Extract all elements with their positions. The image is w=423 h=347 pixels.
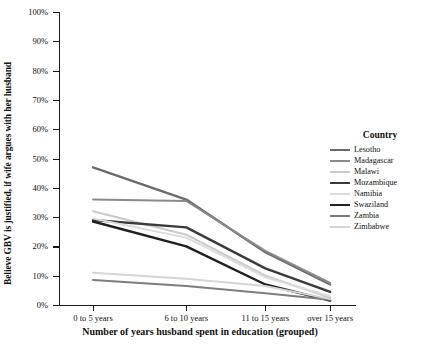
legend-item: Namibia <box>330 188 422 199</box>
legend-label: Zambia <box>354 211 379 220</box>
x-tick-mark <box>330 305 331 311</box>
y-tick-label: 90% <box>6 36 48 46</box>
legend: Country LesothoMadagascarMalawiMozambiqu… <box>330 130 422 232</box>
y-tick-label: 100% <box>6 7 48 17</box>
legend-item: Lesotho <box>330 144 422 155</box>
y-tick-label: 40% <box>6 182 48 192</box>
y-tick-label: 70% <box>6 94 48 104</box>
chart-page: Believe GBV is justified, if wife argues… <box>0 0 423 347</box>
legend-title: Country <box>332 130 422 140</box>
y-tick-label: 20% <box>6 241 48 251</box>
legend-label: Malawi <box>354 167 379 176</box>
legend-swatch <box>330 204 350 206</box>
legend-label: Mozambique <box>354 178 397 187</box>
x-tick-mark <box>93 305 94 311</box>
x-tick-label: 6 to 10 years <box>141 313 231 323</box>
x-tick-mark <box>265 305 266 311</box>
legend-item: Swaziland <box>330 199 422 210</box>
legend-label: Zimbabwe <box>354 222 389 231</box>
legend-item: Malawi <box>330 166 422 177</box>
x-axis-title: Number of years husband spent in educati… <box>40 326 360 337</box>
plot-area <box>59 12 355 305</box>
y-tick-label: 80% <box>6 65 48 75</box>
series-line <box>93 211 330 297</box>
y-tick-label: 10% <box>6 270 48 280</box>
x-tick-label: 0 to 5 years <box>48 313 138 323</box>
y-tick-mark <box>53 305 59 306</box>
legend-item: Zimbabwe <box>330 221 422 232</box>
legend-label: Namibia <box>354 189 382 198</box>
legend-swatch <box>330 226 350 228</box>
y-tick-label: 0% <box>6 300 48 310</box>
legend-swatch <box>330 182 350 184</box>
y-tick-label: 30% <box>6 212 48 222</box>
legend-swatch <box>330 149 350 151</box>
legend-items: LesothoMadagascarMalawiMozambiqueNamibia… <box>330 144 422 232</box>
legend-swatch <box>330 193 350 195</box>
legend-item: Madagascar <box>330 155 422 166</box>
legend-swatch <box>330 160 350 162</box>
series-line <box>93 280 330 300</box>
legend-label: Swaziland <box>354 200 388 209</box>
legend-item: Zambia <box>330 210 422 221</box>
legend-item: Mozambique <box>330 177 422 188</box>
legend-label: Lesotho <box>354 145 380 154</box>
x-tick-label: over 15 years <box>285 313 375 323</box>
y-axis-title: Believe GBV is justified, if wife argues… <box>0 0 16 347</box>
y-tick-label: 60% <box>6 124 48 134</box>
series-lines <box>59 12 355 305</box>
legend-swatch <box>330 215 350 217</box>
y-tick-label: 50% <box>6 153 48 163</box>
x-tick-mark <box>186 305 187 311</box>
legend-swatch <box>330 171 350 173</box>
legend-label: Madagascar <box>354 156 394 165</box>
